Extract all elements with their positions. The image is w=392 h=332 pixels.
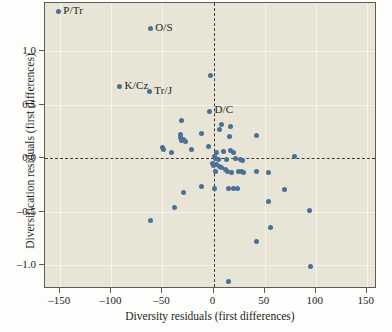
data-point — [241, 170, 246, 175]
x-tick — [213, 288, 214, 293]
gridline-vertical — [111, 3, 112, 287]
x-tick — [59, 288, 60, 293]
data-point — [117, 84, 122, 89]
data-point — [308, 264, 313, 269]
data-point — [206, 144, 211, 149]
x-tick-label: –150 — [48, 294, 70, 306]
y-tick — [39, 50, 44, 51]
gridline-vertical — [367, 3, 368, 287]
point-label: Tr/J — [154, 84, 172, 96]
data-point — [268, 225, 273, 230]
data-point — [228, 124, 233, 129]
gridline-vertical — [60, 3, 61, 287]
scatter-plot-figure: P/TrO/SK/CzTr/JD/C –150–100–500501001501… — [0, 0, 392, 332]
gridline-vertical — [316, 3, 317, 287]
gridline-horizontal — [45, 265, 375, 266]
gridline-vertical — [265, 3, 266, 287]
data-point — [227, 134, 232, 139]
data-point — [217, 127, 222, 132]
data-point — [213, 169, 218, 174]
data-point — [161, 147, 166, 152]
point-label: D/C — [214, 103, 233, 115]
x-tick-label: –50 — [153, 294, 170, 306]
y-tick — [39, 157, 44, 158]
y-tick — [39, 104, 44, 105]
zero-line-vertical — [214, 3, 215, 287]
y-tick — [39, 211, 44, 212]
data-point — [254, 169, 259, 174]
data-point — [266, 199, 271, 204]
data-point — [56, 9, 61, 14]
point-label: P/Tr — [63, 4, 83, 16]
x-tick — [366, 288, 367, 293]
x-tick — [161, 288, 162, 293]
data-point — [147, 89, 152, 94]
x-tick-label: 100 — [306, 294, 323, 306]
x-tick-label: 0 — [210, 294, 216, 306]
data-point — [148, 218, 153, 223]
data-point — [229, 170, 234, 175]
point-label: O/S — [155, 21, 173, 33]
point-label: K/Cz — [125, 79, 149, 91]
data-point — [199, 131, 204, 136]
plot-inner: P/TrO/SK/CzTr/JD/C — [45, 3, 375, 287]
data-point — [224, 157, 229, 162]
data-point — [266, 170, 271, 175]
data-point — [254, 239, 259, 244]
data-point — [219, 122, 224, 127]
data-point — [292, 154, 297, 159]
data-point — [212, 186, 217, 191]
x-tick — [264, 288, 265, 293]
x-tick — [315, 288, 316, 293]
data-point — [199, 184, 204, 189]
data-point — [183, 139, 188, 144]
data-point — [179, 118, 184, 123]
x-tick-label: 50 — [258, 294, 269, 306]
y-tick — [39, 264, 44, 265]
data-point — [254, 133, 259, 138]
gridline-horizontal — [45, 51, 375, 52]
data-point — [172, 205, 177, 210]
data-point — [282, 187, 287, 192]
data-point — [181, 190, 186, 195]
zero-line-horizontal — [45, 158, 375, 159]
plot-area: P/TrO/SK/CzTr/JD/C — [44, 2, 376, 288]
y-axis-title: Diversification residuals (first differe… — [24, 36, 36, 266]
data-point — [235, 186, 240, 191]
gridline-horizontal — [45, 105, 375, 106]
data-point — [231, 150, 236, 155]
x-tick-label: –100 — [99, 294, 121, 306]
x-axis-title: Diversity residuals (first differences) — [44, 310, 376, 322]
data-point — [208, 73, 213, 78]
data-point — [169, 150, 174, 155]
gridline-horizontal — [45, 212, 375, 213]
data-point — [221, 149, 226, 154]
data-point — [216, 157, 221, 162]
data-point — [226, 279, 231, 284]
data-point — [148, 26, 153, 31]
x-tick-label: 150 — [358, 294, 375, 306]
data-point — [189, 147, 194, 152]
data-point — [207, 109, 212, 114]
x-tick — [110, 288, 111, 293]
data-point — [240, 158, 245, 163]
data-point — [233, 156, 238, 161]
